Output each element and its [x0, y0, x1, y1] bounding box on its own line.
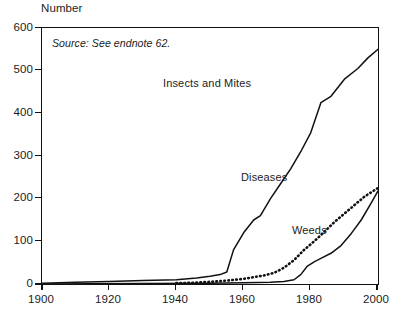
plot-area: Source: See endnote 62. — [41, 27, 379, 285]
x-tick-label-2000: 2000 — [353, 293, 399, 305]
y-axis-title: Number — [41, 2, 83, 14]
chart-figure: Number 600 500 400 300 200 100 0 1900 19… — [0, 0, 408, 321]
y-tick-label-600: 600 — [3, 21, 33, 33]
y-tick-label-400: 400 — [3, 106, 33, 118]
x-tick-label-1900: 1900 — [18, 293, 64, 305]
x-tick-label-1920: 1920 — [85, 293, 131, 305]
series-label-weeds: Weeds — [292, 224, 327, 236]
x-tick-label-1940: 1940 — [152, 293, 198, 305]
y-tick-label-0: 0 — [3, 277, 33, 289]
series-label-insects-and-mites: Insects and Mites — [163, 77, 251, 89]
series-line-weeds — [42, 191, 378, 284]
y-tick-label-200: 200 — [3, 191, 33, 203]
series-label-diseases: Diseases — [241, 171, 287, 183]
y-tick-label-500: 500 — [3, 63, 33, 75]
y-tick-label-100: 100 — [3, 234, 33, 246]
x-tick-label-1980: 1980 — [286, 293, 332, 305]
y-tick-label-300: 300 — [3, 149, 33, 161]
series-line-diseases — [176, 188, 378, 283]
series-canvas — [42, 28, 378, 284]
source-annotation: Source: See endnote 62. — [52, 37, 170, 49]
x-tick-label-1960: 1960 — [219, 293, 265, 305]
